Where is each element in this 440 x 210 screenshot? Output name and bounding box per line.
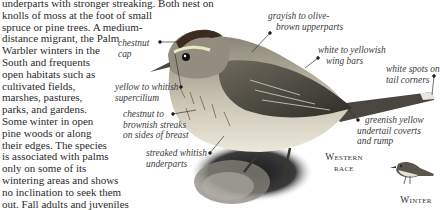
bird-eye <box>182 53 190 61</box>
label-line: greenish yellow <box>357 115 424 126</box>
label-breast-streaks: chestnut to brownish streaks on sides of… <box>123 109 189 141</box>
label-western-race: Western race <box>322 152 366 174</box>
label-line: race <box>322 163 366 174</box>
label-line: chestnut <box>118 38 149 49</box>
label-undertail: greenish yellow undertail coverts and ru… <box>357 115 424 147</box>
label-wing-bars: white to yellowish wing bars <box>318 45 386 66</box>
label-line: cap <box>118 49 149 60</box>
winter-race-bird <box>390 162 434 184</box>
label-upperparts: grayish to olive- brown upperparts <box>268 11 343 32</box>
label-line: tail corners <box>386 75 440 86</box>
label-line: on sides of breast <box>123 130 189 141</box>
label-line: yellow to whitish <box>115 82 179 93</box>
label-line: supercilium <box>115 93 179 104</box>
label-winter: Winter <box>394 195 438 206</box>
label-line: Western <box>322 152 366 163</box>
bird-beak <box>150 62 170 72</box>
label-line: white spots on <box>386 64 440 75</box>
label-line: wing bars <box>318 56 386 67</box>
label-line: streaked whitish <box>146 148 207 159</box>
label-line: brownish streaks <box>123 120 189 131</box>
label-line: brown upperparts <box>268 22 343 33</box>
label-underparts: streaked whitish underparts <box>146 148 207 169</box>
label-line: and rump <box>357 136 424 147</box>
label-chestnut-cap: chestnut cap <box>118 38 149 59</box>
label-line: white to yellowish <box>318 45 386 56</box>
label-line: grayish to olive- <box>268 11 343 22</box>
label-line: chestnut to <box>123 109 189 120</box>
label-supercilium: yellow to whitish supercilium <box>115 82 179 103</box>
label-line: undertail coverts <box>357 126 424 137</box>
label-line: underparts <box>146 159 207 170</box>
label-tail-spots: white spots on tail corners <box>386 64 440 85</box>
